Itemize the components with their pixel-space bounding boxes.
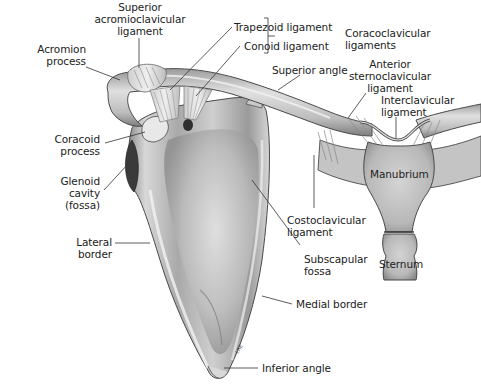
label-superior-angle: Superior angle bbox=[272, 64, 348, 76]
label-acromion-process: Acromion process bbox=[28, 43, 86, 67]
label-interclavicular-ligament: Interclavicular ligament bbox=[381, 94, 454, 118]
label-conoid-ligament: Conoid ligament bbox=[244, 40, 329, 52]
label-trapezoid-ligament: Trapezoid ligament bbox=[234, 21, 332, 33]
label-inferior-angle: Inferior angle bbox=[262, 362, 331, 374]
scapula: LRE bbox=[126, 97, 270, 379]
label-anterior-sternoclavicular-ligament: Anterior sternoclavicular ligament bbox=[340, 58, 440, 94]
label-glenoid-cavity: Glenoid cavity (fossa) bbox=[40, 175, 100, 211]
label-coracoid-process: Coracoid process bbox=[40, 133, 100, 157]
label-subscapular-fossa: Subscapular fossa bbox=[304, 253, 368, 277]
scapular-notch bbox=[183, 119, 193, 131]
label-lateral-border: Lateral border bbox=[50, 236, 112, 260]
manubrium-shape bbox=[364, 142, 435, 232]
label-coracoclavicular-ligaments: Coracoclavicular ligaments bbox=[345, 27, 430, 51]
label-manubrium: Manubrium bbox=[370, 168, 428, 180]
anatomy-figure: LRE bbox=[0, 0, 481, 390]
label-costoclavicular-ligament: Costoclavicular ligament bbox=[287, 214, 366, 238]
superior-acromioclavicular-ligament-shape bbox=[128, 64, 167, 92]
label-sternum: Sternum bbox=[376, 258, 426, 270]
sternum-shape bbox=[383, 234, 417, 280]
label-superior-acromioclavicular-ligament: Superior acromioclavicular ligament bbox=[92, 1, 188, 37]
label-medial-border: Medial border bbox=[296, 298, 367, 310]
